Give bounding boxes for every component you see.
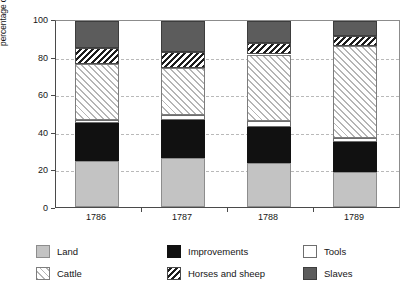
y-tick-label-40: 40 — [18, 128, 48, 138]
legend-label-slaves: Slaves — [324, 268, 353, 279]
x-tick-mark-3 — [313, 208, 314, 212]
legend-item-land[interactable]: Land — [36, 243, 78, 259]
bar-1788-segment-cattle — [247, 55, 291, 121]
legend-label-horses-and-sheep: Horses and sheep — [188, 268, 265, 279]
horses-and-sheep-swatch-icon — [167, 267, 181, 280]
bar-1786-segment-improvements — [75, 123, 119, 161]
bar-1787-segment-slaves — [161, 21, 205, 52]
y-tick-label-100: 100 — [18, 15, 48, 25]
y-axis-title: percentage of total inventory value — [0, 0, 8, 46]
x-tick-label-1787: 1787 — [152, 212, 212, 222]
bar-1787-segment-land — [161, 158, 205, 207]
legend-item-cattle[interactable]: Cattle — [36, 265, 82, 281]
legend-label-cattle: Cattle — [57, 268, 82, 279]
x-tick-label-1786: 1786 — [66, 212, 126, 222]
land-swatch-icon — [36, 245, 50, 258]
bar-1786-segment-horses-and-sheep — [75, 48, 119, 64]
legend-label-improvements: Improvements — [188, 246, 248, 257]
y-tick-label-80: 80 — [18, 53, 48, 63]
legend-item-improvements[interactable]: Improvements — [167, 243, 248, 259]
bar-1787-segment-tools — [161, 115, 205, 120]
x-tick-mark-1 — [141, 208, 142, 212]
bar-1787-segment-horses-and-sheep — [161, 52, 205, 68]
legend-item-tools[interactable]: Tools — [303, 243, 346, 259]
bar-1787-segment-improvements — [161, 120, 205, 158]
bar-1789-segment-improvements — [333, 142, 377, 172]
bar-1788-segment-land — [247, 163, 291, 207]
bar-1788-segment-horses-and-sheep — [247, 43, 291, 54]
x-tick-label-1789: 1789 — [324, 212, 384, 222]
bar-1786-segment-land — [75, 161, 119, 207]
bar-1786-segment-cattle — [75, 64, 119, 120]
legend-item-slaves[interactable]: Slaves — [303, 265, 353, 281]
bar-1786-segment-slaves — [75, 21, 119, 48]
bar-1789-segment-horses-and-sheep — [333, 36, 377, 46]
bar-1787[interactable] — [161, 21, 205, 207]
slaves-swatch-icon — [303, 267, 317, 280]
plot-area — [55, 20, 400, 208]
x-tick-mark-2 — [227, 208, 228, 212]
legend-label-land: Land — [57, 246, 78, 257]
legend-label-tools: Tools — [324, 246, 346, 257]
bar-1786-segment-tools — [75, 120, 119, 124]
bar-1789[interactable] — [333, 21, 377, 207]
bar-1789-segment-cattle — [333, 46, 377, 138]
y-tick-label-0: 0 — [18, 203, 48, 213]
bar-1787-segment-cattle — [161, 68, 205, 115]
cattle-swatch-icon — [36, 267, 50, 280]
bar-1789-segment-tools — [333, 138, 377, 142]
x-tick-label-1788: 1788 — [238, 212, 298, 222]
y-tick-mark-0 — [51, 208, 55, 209]
bar-1788-segment-tools — [247, 121, 291, 128]
y-tick-label-60: 60 — [18, 90, 48, 100]
bar-1789-segment-slaves — [333, 21, 377, 36]
bar-1788[interactable] — [247, 21, 291, 207]
legend-item-horses-and-sheep[interactable]: Horses and sheep — [167, 265, 265, 281]
bar-1788-segment-slaves — [247, 21, 291, 43]
y-tick-label-20: 20 — [18, 165, 48, 175]
improvements-swatch-icon — [167, 245, 181, 258]
chart-legend: Land Cattle Improvements Horses and shee… — [36, 243, 396, 287]
bar-1789-segment-land — [333, 172, 377, 207]
tools-swatch-icon — [303, 245, 317, 258]
bar-1788-segment-improvements — [247, 127, 291, 163]
stacked-bar-chart: percentage of total inventory value 100 … — [0, 0, 405, 293]
bar-1786[interactable] — [75, 21, 119, 207]
